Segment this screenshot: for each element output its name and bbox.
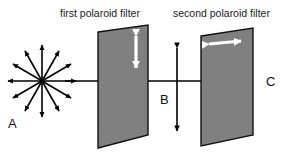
polarization-diagram: first polaroid filter second polaroid fi… [0, 0, 293, 157]
second-polaroid-filter [201, 28, 253, 146]
label-c: C [266, 74, 275, 89]
first-filter-caption: first polaroid filter [60, 7, 140, 19]
first-polaroid-filter [98, 25, 148, 148]
second-filter-caption: second polaroid filter [173, 7, 270, 19]
label-a: A [8, 116, 17, 131]
diagram-canvas: first polaroid filter second polaroid fi… [0, 0, 293, 157]
label-b: B [160, 92, 169, 107]
